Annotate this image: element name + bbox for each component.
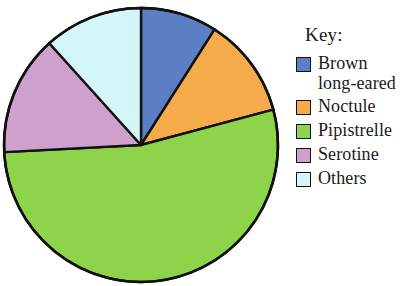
legend-item-brown-long-eared[interactable]: Brown long-eared [296,53,414,93]
legend-swatch-serotine [296,148,311,163]
legend-label-others: Others [318,168,367,188]
legend-item-others[interactable]: Others [296,168,414,188]
legend-item-serotine[interactable]: Serotine [296,144,414,164]
legend-label-serotine: Serotine [318,144,379,164]
pie-chart-svg [0,0,286,286]
legend: Key: Brown long-eared Noctule Pipistrell… [296,24,414,192]
legend-swatch-pipistrelle [296,124,311,139]
legend-swatch-noctule [296,100,311,115]
pie-chart-area [0,0,286,286]
legend-label-pipistrelle: Pipistrelle [318,120,392,140]
legend-title: Key: [305,24,414,46]
legend-swatch-brown-long-eared [296,57,311,72]
legend-item-pipistrelle[interactable]: Pipistrelle [296,120,414,140]
legend-label-brown-long-eared: Brown long-eared [318,53,396,93]
legend-swatch-others [296,172,311,187]
legend-item-noctule[interactable]: Noctule [296,96,414,116]
legend-label-noctule: Noctule [318,96,376,116]
pie-chart-figure: Key: Brown long-eared Noctule Pipistrell… [0,0,414,286]
